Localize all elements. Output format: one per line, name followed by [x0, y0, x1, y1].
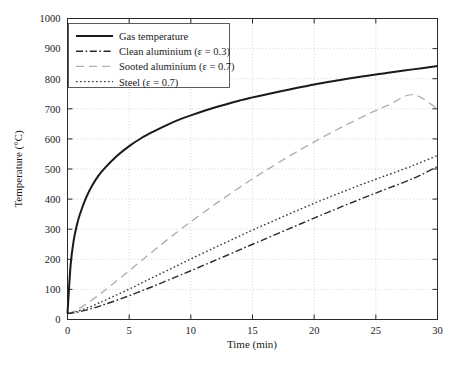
x-tick-label: 20 [309, 325, 320, 336]
y-tick-label: 0 [55, 314, 60, 325]
x-tick-label: 0 [65, 325, 70, 336]
y-axis-title: Temperature (°C) [12, 130, 25, 208]
x-tick-label: 25 [371, 325, 382, 336]
legend-label: Steel (ε = 0.7) [119, 77, 179, 89]
y-tick-label: 700 [45, 104, 61, 115]
x-tick-label: 5 [127, 325, 132, 336]
y-tick-label: 900 [45, 43, 61, 54]
x-axis-title: Time (min) [227, 338, 277, 351]
legend-label: Gas temperature [119, 31, 188, 42]
y-tick-label: 500 [45, 164, 61, 175]
legend-label: Clean aluminium (ε = 0.3) [119, 46, 230, 58]
x-tick-label: 10 [186, 325, 197, 336]
y-tick-label: 200 [45, 254, 61, 265]
x-tick-label: 15 [247, 325, 258, 336]
y-tick-label: 300 [45, 224, 61, 235]
y-tick-label: 100 [45, 284, 61, 295]
y-tick-label: 1000 [40, 13, 61, 24]
y-tick-label: 400 [45, 194, 61, 205]
legend-label: Sooted aluminium (ε = 0.7) [119, 61, 235, 73]
y-tick-label: 800 [45, 74, 61, 85]
x-tick-label: 30 [432, 325, 443, 336]
temperature-time-chart: 051015202530 010020030040050060070080090… [0, 0, 460, 366]
chart-legend: Gas temperatureClean aluminium (ε = 0.3)… [69, 24, 236, 89]
y-tick-label: 600 [45, 134, 61, 145]
